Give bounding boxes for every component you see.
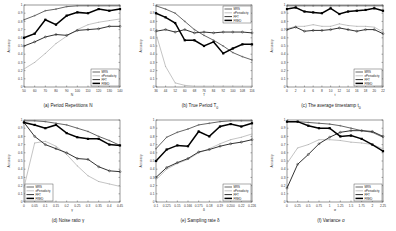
y-tick-label: 0.6	[281, 36, 286, 40]
x-tick-label: 92	[221, 89, 225, 93]
y-tick-label: 0.8	[18, 20, 23, 24]
legend-entry: FRED	[234, 19, 242, 23]
y-tick-label: 0.3	[281, 176, 286, 180]
x-tick-label: 2.25	[380, 204, 386, 208]
y-tick-label: 0.4	[18, 52, 23, 56]
chart-f: 00.10.20.30.40.50.60.70.80.91Accuracy00.…	[265, 115, 396, 215]
x-tick-label: 60	[183, 89, 187, 93]
y-tick-label: 0.4	[281, 167, 286, 171]
x-tick-label: 18	[364, 89, 368, 93]
x-tick-label: 12	[338, 89, 342, 93]
y-axis-label: Accuracy	[139, 154, 143, 168]
y-tick-label: 0.8	[281, 135, 286, 139]
y-axis-label: Accuracy	[270, 39, 274, 53]
x-tick-label: 0.4	[107, 204, 112, 208]
y-tick-label: 1	[153, 118, 155, 122]
x-tick-label: 70	[44, 89, 48, 93]
x-tick-label: 0.2	[64, 204, 69, 208]
x-tick-label: 1	[329, 204, 331, 208]
y-tick-label: 0.3	[150, 61, 155, 65]
y-tick-label: 0.5	[150, 159, 155, 163]
y-tick-label: 0.9	[18, 126, 23, 130]
x-tick-label: 100	[75, 89, 81, 93]
x-tick-label: 80	[54, 89, 58, 93]
x-tick-label: 130	[107, 89, 113, 93]
legend: MRSePeriodicityFFTFRED	[354, 69, 382, 86]
x-tick-label: 0.19	[217, 204, 223, 208]
y-tick-label: 0.2	[281, 69, 286, 73]
y-tick-label: 0.8	[150, 20, 155, 24]
chart-c: 00.10.20.30.40.50.60.70.80.91Accuracy024…	[265, 0, 396, 100]
y-tick-label: 0.6	[150, 151, 155, 155]
y-tick-label: 1	[153, 3, 155, 7]
y-tick-label: 0.4	[150, 52, 155, 56]
y-tick-label: 0.1	[281, 192, 286, 196]
caption-d: (d) Noise ratio γ	[2, 218, 134, 223]
x-tick-label: 0.125	[163, 204, 171, 208]
x-tick-label: 0.22	[238, 204, 244, 208]
x-tick-label: 0.18	[206, 204, 212, 208]
x-tick-label: 0.35	[96, 204, 102, 208]
x-tick-label: 0.200	[227, 204, 235, 208]
y-tick-label: 0.3	[281, 61, 286, 65]
y-tick-label: 0.3	[18, 176, 23, 180]
x-axis-label: N	[71, 93, 74, 97]
y-tick-label: 0.1	[150, 192, 155, 196]
x-tick-label: 116	[249, 89, 254, 93]
x-tick-label: 68	[193, 89, 197, 93]
y-tick-label: 0.9	[281, 11, 286, 15]
y-tick-label: 0.3	[150, 176, 155, 180]
x-tick-label: 22	[381, 89, 385, 93]
x-tick-label: 16	[355, 89, 359, 93]
x-tick-label: 76	[202, 89, 206, 93]
x-axis-label: σ	[334, 208, 337, 212]
x-tick-label: 120	[96, 89, 102, 93]
chart-a: 00.10.20.30.40.50.60.70.80.91Accuracy506…	[2, 0, 134, 100]
legend: MRSePeriodicityFFTFRED	[25, 184, 53, 201]
x-tick-label: 60	[33, 89, 37, 93]
x-tick-label: 0.1	[43, 204, 48, 208]
subplot-b: 00.10.20.30.40.50.60.70.80.91Accuracy364…	[134, 0, 266, 115]
legend: MRSePeriodicityFFTFRED	[91, 69, 119, 86]
x-tick-label: 44	[164, 89, 168, 93]
y-tick-label: 0.1	[150, 77, 155, 81]
y-tick-label: 0.9	[281, 126, 286, 130]
caption-c: (c) The average timestamp t0	[265, 103, 396, 110]
legend-entry: FRED	[365, 82, 373, 86]
y-tick-label: 0.5	[150, 44, 155, 48]
x-tick-label: 90	[65, 89, 69, 93]
x-tick-label: 20	[372, 89, 376, 93]
y-tick-label: 0.4	[18, 167, 23, 171]
y-tick-label: 0.4	[281, 52, 286, 56]
x-tick-label: 1.5	[349, 204, 354, 208]
y-tick-label: 0.8	[281, 20, 286, 24]
x-axis-label: T	[203, 93, 205, 97]
legend-entry: FRED	[36, 197, 44, 201]
y-tick-label: 0.5	[281, 44, 286, 48]
x-tick-label: 0.166	[184, 204, 192, 208]
subplot-f: 00.10.20.30.40.50.60.70.80.91Accuracy00.…	[265, 115, 396, 230]
x-axis-label: δ	[203, 208, 205, 212]
y-tick-label: 0.5	[18, 159, 23, 163]
x-tick-label: 0	[23, 204, 25, 208]
x-tick-label: 0.25	[295, 204, 301, 208]
y-axis-label: Accuracy	[139, 39, 143, 53]
subplot-e: 00.10.20.30.40.50.60.70.80.91Accuracy0.1…	[134, 115, 266, 230]
x-tick-label: 0	[286, 204, 288, 208]
subplot-a: 00.10.20.30.40.50.60.70.80.91Accuracy506…	[2, 0, 134, 115]
y-tick-label: 0.8	[150, 135, 155, 139]
y-axis-label: Accuracy	[270, 154, 274, 168]
x-tick-label: 0	[286, 89, 288, 93]
subplot-d: 00.10.20.30.40.50.60.70.80.91Accuracy00.…	[2, 115, 134, 230]
legend-entry: FRED	[234, 197, 242, 201]
y-tick-label: 1	[284, 118, 286, 122]
y-axis-label: Accuracy	[7, 154, 11, 168]
y-tick-label: 1	[284, 3, 286, 7]
caption-f: (f) Variance σ	[265, 218, 396, 223]
y-tick-label: 0.3	[18, 61, 23, 65]
x-tick-label: 0.1	[154, 204, 159, 208]
y-tick-label: 0.6	[150, 36, 155, 40]
x-tick-label: 0.3	[86, 204, 91, 208]
x-tick-label: 1.25	[337, 204, 343, 208]
y-tick-label: 0.6	[18, 36, 23, 40]
